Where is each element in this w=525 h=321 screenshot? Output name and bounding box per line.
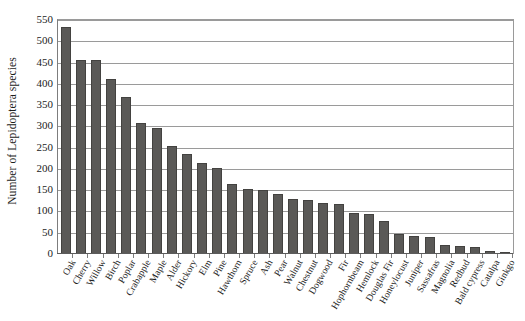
bar [258, 190, 268, 254]
y-tick-label: 0 [22, 246, 53, 260]
y-tick-label: 50 [22, 225, 53, 239]
bar [349, 213, 359, 254]
y-tick-label: 250 [22, 140, 53, 154]
bar [91, 60, 101, 254]
bar [288, 199, 298, 254]
bar [409, 236, 419, 254]
bar [303, 200, 313, 254]
bar [425, 237, 435, 254]
bar [334, 204, 344, 254]
y-tick-label: 200 [22, 161, 53, 175]
x-category-label: Ash [258, 258, 274, 277]
bar [106, 79, 116, 254]
y-tick-label: 550 [22, 12, 53, 26]
x-axis-category-labels: OakCherryWillowBirchPoplarCrabappleMaple… [57, 258, 513, 320]
bars-layer [58, 20, 513, 254]
bar [212, 168, 222, 254]
x-category-label: Elm [197, 258, 214, 277]
y-tick-label: 450 [22, 55, 53, 69]
bar [76, 60, 86, 254]
bar [227, 184, 237, 254]
y-axis-title: Number of Lepidoptera species [2, 4, 22, 258]
lepidoptera-species-bar-chart: Number of Lepidoptera species 0501001502… [0, 0, 525, 321]
plot-area [57, 19, 514, 254]
y-axis-tick-labels: 050100150200250300350400450500550 [22, 12, 53, 260]
bar [167, 146, 177, 254]
bar [318, 203, 328, 254]
y-tick-label: 400 [22, 76, 53, 90]
bar [121, 97, 131, 254]
bar [136, 123, 146, 254]
y-tick-label: 150 [22, 182, 53, 196]
bar [379, 221, 389, 254]
bar [243, 189, 253, 254]
y-tick-label: 100 [22, 203, 53, 217]
bar [364, 214, 374, 254]
bar [197, 163, 207, 254]
y-tick-label: 350 [22, 97, 53, 111]
bar [273, 194, 283, 254]
y-tick-label: 300 [22, 118, 53, 132]
bar [182, 154, 192, 254]
bar [152, 128, 162, 254]
bar [61, 27, 71, 254]
y-tick-label: 500 [22, 33, 53, 47]
bar [394, 234, 404, 254]
